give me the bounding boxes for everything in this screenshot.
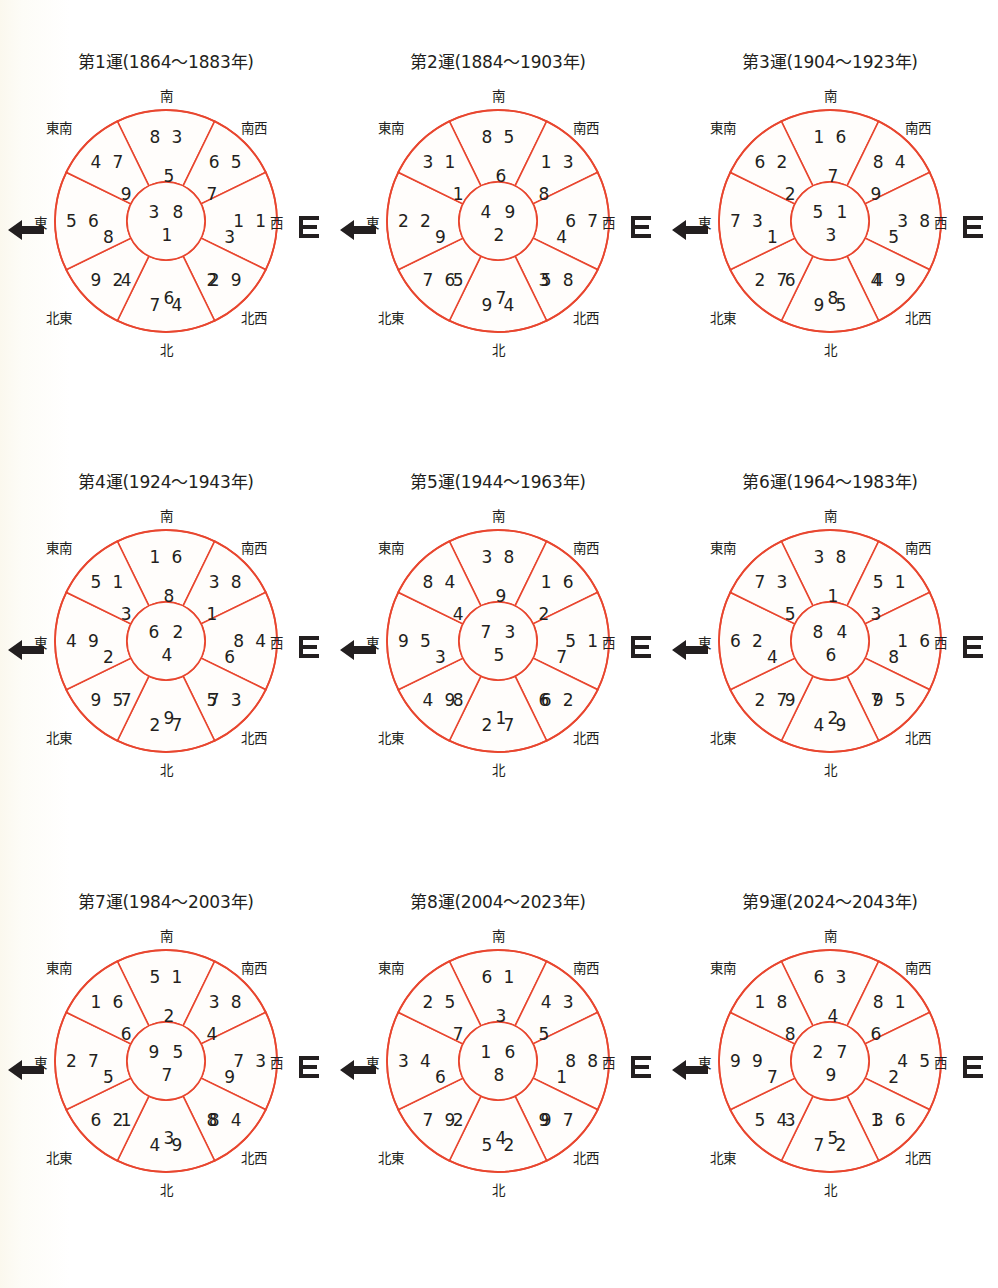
- direction-label-west: 西: [270, 1052, 283, 1072]
- star-number-south-top-right: 5: [504, 129, 515, 146]
- star-number-east-bottom: 1: [767, 229, 778, 246]
- right-arrow-tail-glyph: [960, 213, 986, 241]
- star-number-west-top-right: 1: [255, 213, 266, 230]
- direction-label-north: 北: [160, 1179, 173, 1199]
- star-number-southeast-top-right: 7: [112, 153, 123, 170]
- direction-label-west: 西: [602, 1052, 615, 1072]
- center-palace: [791, 1022, 869, 1100]
- star-number-west-bottom: 4: [556, 229, 567, 246]
- direction-label-southeast: 東南: [46, 957, 72, 977]
- direction-label-west: 西: [934, 1052, 947, 1072]
- star-number-south-top-left: 3: [814, 549, 825, 566]
- west-direction-arrow-tail-icon: [960, 633, 986, 661]
- center-star-number-bottom: 1: [162, 227, 173, 244]
- direction-label-southwest: 南西: [241, 537, 267, 557]
- chart-cell: 第3運(1904〜1923年)1678493854949582767316225…: [664, 28, 996, 448]
- star-number-southeast-top-right: 3: [776, 573, 787, 590]
- direction-label-west: 西: [934, 632, 947, 652]
- direction-label-southeast: 東南: [710, 537, 736, 557]
- star-number-south-top-left: 6: [482, 969, 493, 986]
- star-number-southwest-bottom: 8: [538, 186, 549, 203]
- star-number-northwest-bottom: 5: [206, 691, 217, 708]
- direction-label-northeast: 北東: [710, 307, 736, 327]
- star-number-north-bottom: 4: [496, 1129, 507, 1146]
- star-number-northeast-bottom: 1: [121, 1111, 132, 1128]
- right-arrow-tail-glyph: [628, 1053, 654, 1081]
- star-number-east-top-right: 2: [752, 633, 763, 650]
- star-number-northeast-bottom: 6: [785, 271, 796, 288]
- star-number-southwest-top-right: 8: [231, 573, 242, 590]
- star-number-northeast-top-left: 5: [754, 1112, 765, 1129]
- star-number-west-bottom: 1: [556, 1069, 567, 1086]
- star-number-northwest-top-right: 2: [563, 692, 574, 709]
- star-number-west-top-right: 8: [587, 1053, 598, 1070]
- right-arrow-tail-glyph: [960, 633, 986, 661]
- star-number-south-top-left: 1: [814, 129, 825, 146]
- star-number-southeast-bottom: 7: [453, 1026, 464, 1043]
- chart-title: 第7運(1984〜2003年): [0, 888, 332, 913]
- center-star-number-top-left: 2: [813, 1044, 824, 1061]
- star-number-north-bottom: 5: [828, 1129, 839, 1146]
- right-arrow-tail-glyph: [960, 1053, 986, 1081]
- star-number-northeast-top-left: 7: [422, 1112, 433, 1129]
- flying-star-wheel: 634816452361725543997188279南北東西東南南西北東北西: [664, 917, 996, 1217]
- chart-cell: 第2運(1884〜1903年)8561386745839477652293114…: [332, 28, 664, 448]
- star-number-east-top-right: 4: [420, 1053, 431, 1070]
- star-number-southeast-top-left: 6: [754, 153, 765, 170]
- flying-star-wheel: 167849385494958276731622513南北東西東南南西北東北西: [664, 77, 996, 377]
- star-number-southwest-top-right: 5: [231, 153, 242, 170]
- center-star-number-top-left: 8: [813, 624, 824, 641]
- star-number-southeast-top-left: 4: [90, 153, 101, 170]
- star-number-east-bottom: 7: [767, 1069, 778, 1086]
- direction-label-south: 南: [824, 505, 837, 525]
- star-number-east-top-left: 5: [66, 213, 77, 230]
- star-number-south-top-right: 1: [504, 969, 515, 986]
- left-arrow-glyph: [338, 637, 378, 663]
- flying-star-wheel: 389162517626271498953844735南北東西東南南西北東北西: [332, 497, 664, 797]
- direction-label-north: 北: [160, 339, 173, 359]
- star-number-northwest-bottom: 6: [538, 691, 549, 708]
- star-number-southwest-bottom: 7: [206, 186, 217, 203]
- direction-label-south: 南: [160, 85, 173, 105]
- star-number-west-bottom: 3: [224, 229, 235, 246]
- left-arrow-glyph: [670, 217, 710, 243]
- wheel-graphic: 856138674583947765229311492: [382, 105, 614, 337]
- direction-label-south: 南: [160, 505, 173, 525]
- star-number-west-top-right: 4: [255, 633, 266, 650]
- star-number-south-bottom: 7: [828, 168, 839, 185]
- right-arrow-tail-glyph: [296, 213, 322, 241]
- star-number-north-top-left: 4: [150, 1136, 161, 1153]
- star-number-southeast-top-left: 7: [754, 573, 765, 590]
- direction-label-northwest: 北西: [905, 727, 931, 747]
- star-number-southwest-top-left: 5: [873, 573, 884, 590]
- star-number-north-bottom: 9: [164, 709, 175, 726]
- west-direction-arrow-tail-icon: [960, 213, 986, 241]
- direction-label-northwest: 北西: [905, 1147, 931, 1167]
- direction-label-northeast: 北東: [710, 727, 736, 747]
- flying-star-wheel: 381513168957492279624735846南北東西東南南西北東北西: [664, 497, 996, 797]
- center-star-number-top-right: 6: [505, 1044, 516, 1061]
- center-palace: [127, 182, 205, 260]
- star-number-north-top-left: 7: [150, 296, 161, 313]
- direction-label-west: 西: [934, 212, 947, 232]
- direction-label-northwest: 北西: [573, 727, 599, 747]
- star-number-southwest-bottom: 3: [870, 606, 881, 623]
- chart-title: 第6運(1964〜1983年): [664, 468, 996, 493]
- star-number-northwest-top-right: 9: [231, 272, 242, 289]
- right-arrow-tail-glyph: [296, 1053, 322, 1081]
- center-star-number-top-right: 9: [505, 204, 516, 221]
- star-number-northeast-bottom: 2: [453, 1111, 464, 1128]
- center-palace: [459, 182, 537, 260]
- direction-label-southwest: 南西: [573, 117, 599, 137]
- center-star-number-top-left: 6: [149, 624, 160, 641]
- star-number-northeast-bottom: 4: [121, 271, 132, 288]
- star-number-northwest-top-right: 3: [231, 692, 242, 709]
- star-number-northeast-bottom: 3: [785, 1111, 796, 1128]
- chart-cell: 第6運(1964〜1983年)3815131689574922796247358…: [664, 448, 996, 868]
- direction-label-southeast: 東南: [378, 537, 404, 557]
- star-number-southwest-top-right: 4: [895, 153, 906, 170]
- wheel-graphic: 167849385494958276731622513: [714, 105, 946, 337]
- star-number-southwest-top-left: 3: [209, 993, 220, 1010]
- flying-star-wheel: 168381846735279957492513624南北東西東南南西北東北西: [0, 497, 332, 797]
- star-number-west-top-right: 3: [255, 1053, 266, 1070]
